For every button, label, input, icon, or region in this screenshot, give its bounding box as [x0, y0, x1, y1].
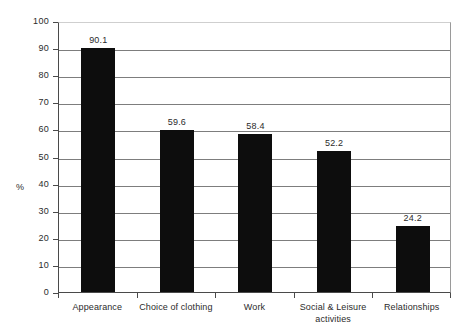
bar-value-label: 52.2: [325, 138, 343, 148]
x-axis-category-label-line1: Relationships: [372, 301, 451, 313]
x-axis-category-label-line1: Social & Leisure: [294, 301, 373, 313]
y-tick-label: 90: [38, 43, 49, 53]
bar: [160, 130, 194, 292]
x-axis-category-label-line1: Choice of clothing: [137, 301, 216, 313]
bar-group: 90.1: [59, 23, 138, 292]
y-tick-label: 10: [38, 260, 49, 270]
bar-chart: % 0102030405060708090100 90.159.658.452.…: [0, 0, 473, 336]
x-tick-mark: [294, 293, 295, 298]
bar: [238, 134, 272, 292]
y-tick-label: 80: [38, 70, 49, 80]
bar-group: 24.2: [373, 23, 452, 292]
x-tick-mark: [450, 293, 451, 298]
x-axis-category-label-line2: activities: [294, 313, 373, 325]
y-tick-label: 70: [38, 97, 49, 107]
x-axis-ticks: [58, 293, 451, 299]
bar-group: 59.6: [138, 23, 217, 292]
x-axis-category-label: Appearance: [58, 301, 137, 313]
bar-value-label: 90.1: [89, 35, 107, 45]
bar-value-label: 58.4: [246, 121, 264, 131]
bar: [317, 151, 351, 292]
x-axis-category-label: Social & Leisureactivities: [294, 301, 373, 325]
y-tick-label: 0: [44, 287, 49, 297]
x-axis-category-label: Choice of clothing: [137, 301, 216, 313]
bar-group: 58.4: [216, 23, 295, 292]
x-tick-mark: [58, 293, 59, 298]
x-axis-category-label-line1: Appearance: [58, 301, 137, 313]
bar: [396, 226, 430, 292]
x-tick-mark: [215, 293, 216, 298]
x-tick-mark: [372, 293, 373, 298]
x-axis-category-label: Work: [215, 301, 294, 313]
x-axis-labels: AppearanceChoice of clothingWorkSocial &…: [58, 301, 451, 335]
y-tick-label: 30: [38, 206, 49, 216]
bar-value-label: 24.2: [404, 213, 422, 223]
x-axis-category-label-line1: Work: [215, 301, 294, 313]
y-tick-label: 50: [38, 152, 49, 162]
bar-group: 52.2: [295, 23, 374, 292]
plot-area: 90.159.658.452.224.2: [58, 22, 451, 293]
y-axis: 0102030405060708090100: [0, 22, 58, 293]
y-tick-label: 60: [38, 124, 49, 134]
bar: [81, 48, 115, 292]
bar-value-label: 59.6: [168, 117, 186, 127]
y-tick-label: 20: [38, 233, 49, 243]
x-axis-category-label: Relationships: [372, 301, 451, 313]
y-tick-label: 40: [38, 179, 49, 189]
x-tick-mark: [137, 293, 138, 298]
y-tick-label: 100: [33, 16, 49, 26]
